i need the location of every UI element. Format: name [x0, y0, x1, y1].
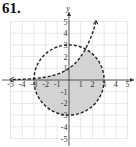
x-tick-label: 4	[114, 80, 118, 89]
y-tick-label: -4	[61, 123, 68, 132]
x-tick-label: 1	[79, 80, 83, 89]
y-tick-label: 4	[64, 29, 68, 38]
x-tick-label: 2	[90, 80, 94, 89]
x-tick-label: -1	[54, 80, 61, 89]
y-tick-label: -3	[61, 111, 68, 120]
x-axis-arrow	[130, 78, 134, 82]
y-tick-label: 2	[64, 53, 68, 62]
y-tick-label: 5	[64, 18, 68, 27]
y-tick-label: 1	[64, 64, 68, 73]
x-tick-label: -5	[7, 80, 14, 89]
x-tick-label: 3	[102, 80, 106, 89]
x-tick-label: -2	[42, 80, 49, 89]
x-tick-label: -3	[31, 80, 38, 89]
x-tick-label: 5	[126, 80, 130, 89]
chart: y -5-4-3-2-11234554321-1-2-3-4-5	[0, 0, 136, 147]
x-tick-label: -4	[19, 80, 26, 89]
y-tick-label: -1	[61, 88, 68, 97]
y-tick-label: 3	[64, 41, 68, 50]
y-tick-label: -2	[61, 99, 68, 108]
y-tick-label: -5	[61, 135, 68, 144]
y-axis-label: y	[65, 4, 70, 13]
